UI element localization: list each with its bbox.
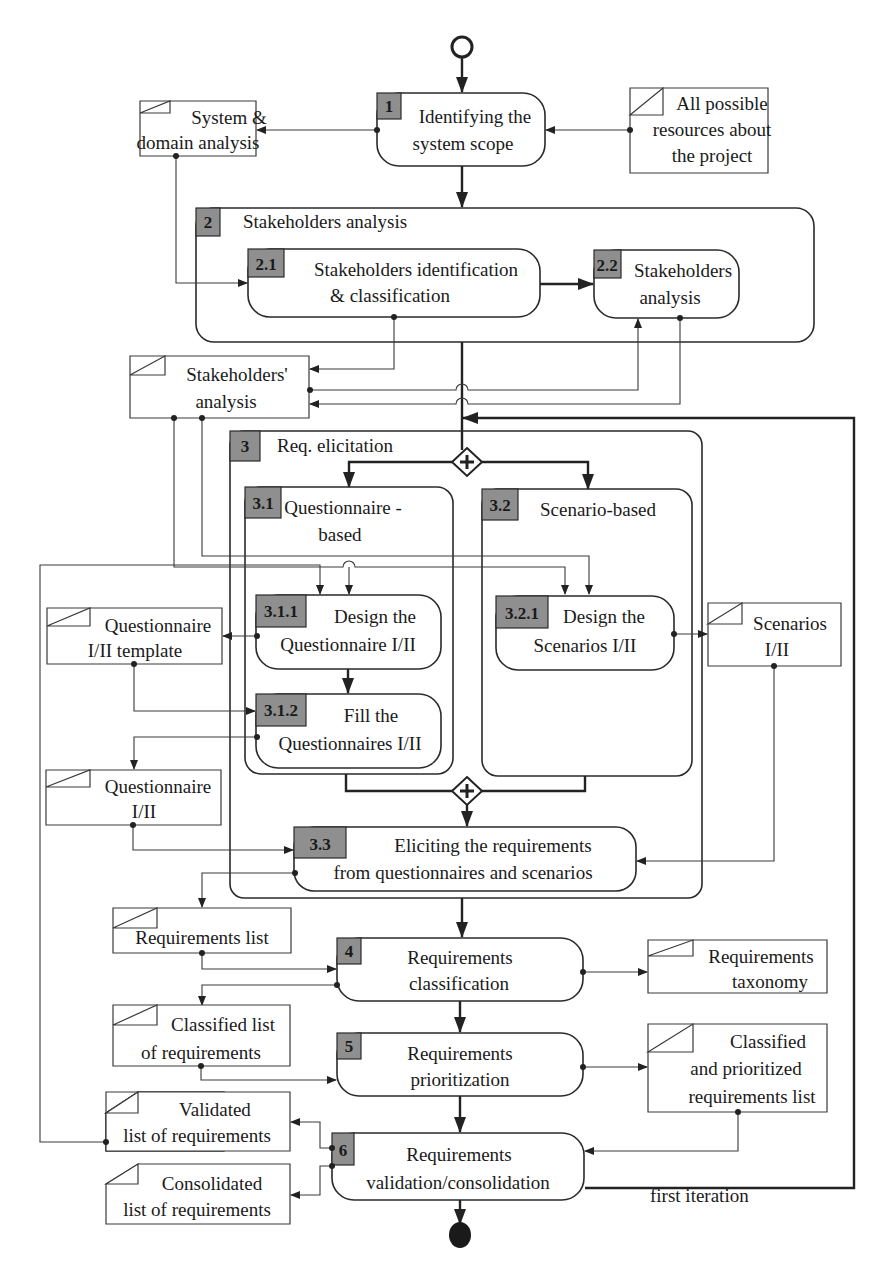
svg-text:I/II template: I/II template (88, 640, 182, 661)
svg-text:requirements list: requirements list (688, 1086, 816, 1107)
activity-3-2-1[interactable]: 3.2.1 Design the Scenarios I/II (496, 596, 674, 670)
svg-text:Requirements list: Requirements list (135, 927, 269, 948)
activity-diagram: 1 Identifying the system scope System & … (0, 0, 879, 1271)
artifact-requirements-list[interactable]: Requirements list (113, 908, 291, 953)
svg-text:system scope: system scope (413, 133, 514, 154)
svg-text:Questionnaire -: Questionnaire - (284, 497, 402, 518)
svg-text:analysis: analysis (195, 391, 256, 412)
svg-text:5: 5 (345, 1037, 354, 1056)
svg-text:Requirements: Requirements (407, 947, 513, 968)
svg-text:3: 3 (241, 437, 250, 456)
artifact-scenarios[interactable]: Scenarios I/II (708, 603, 841, 666)
loop-label: first iteration (650, 1185, 749, 1206)
activity-4[interactable]: 4 Requirements classification (337, 938, 583, 1001)
svg-text:All possible: All possible (676, 93, 767, 114)
svg-text:list of requirements: list of requirements (123, 1199, 271, 1220)
step-number: 1 (385, 97, 394, 116)
artifact-system-domain-analysis[interactable]: System & domain analysis (137, 101, 267, 156)
svg-text:Questionnaire: Questionnaire (105, 776, 212, 797)
svg-text:4: 4 (345, 942, 354, 961)
svg-text:Stakeholders analysis: Stakeholders analysis (243, 211, 407, 232)
svg-text:Identifying the: Identifying the (419, 106, 531, 127)
svg-text:Scenarios: Scenarios (753, 613, 827, 634)
end-node-icon (449, 1222, 471, 1248)
activity-2-1[interactable]: 2.1 Stakeholders identification & classi… (248, 249, 540, 317)
start-node-icon (452, 37, 472, 57)
artifact-questionnaire-template[interactable]: Questionnaire I/II template (47, 608, 222, 664)
activity-6[interactable]: 6 Requirements validation/consolidation (332, 1133, 584, 1200)
artifact-consolidated-list[interactable]: Consolidated list of requirements (106, 1164, 290, 1224)
svg-text:resources about: resources about (653, 119, 772, 140)
svg-text:of requirements: of requirements (141, 1042, 261, 1063)
artifact-validated-list-content: Validated list of requirements (106, 1092, 290, 1151)
svg-text:Classified list: Classified list (171, 1014, 276, 1035)
artifact-prioritized-list[interactable]: Classified and prioritized requirements … (648, 1024, 827, 1112)
svg-text:Consolidated: Consolidated (162, 1173, 263, 1194)
svg-text:3.2: 3.2 (489, 496, 510, 515)
artifact-all-possible-resources[interactable]: All possible resources about the project (630, 88, 772, 173)
activity-3-1-2[interactable]: 3.1.2 Fill the Questionnaires I/II (256, 694, 441, 768)
svg-text:Requirements: Requirements (407, 1043, 513, 1064)
svg-text:domain analysis: domain analysis (137, 132, 260, 153)
svg-text:Questionnaire: Questionnaire (105, 615, 212, 636)
svg-text:Stakeholders: Stakeholders (634, 260, 732, 281)
svg-text:prioritization: prioritization (410, 1069, 510, 1090)
svg-text:System &: System & (191, 107, 267, 128)
svg-text:Eliciting the requirements: Eliciting the requirements (394, 835, 591, 856)
svg-text:analysis: analysis (639, 287, 700, 308)
svg-text:validation/consolidation: validation/consolidation (366, 1172, 550, 1193)
svg-text:3.2.1: 3.2.1 (505, 604, 539, 623)
svg-text:based: based (318, 524, 362, 545)
svg-text:3.3: 3.3 (309, 835, 330, 854)
activity-3-1-1[interactable]: 3.1.1 Design the Questionnaire I/II (256, 595, 441, 669)
artifact-stakeholders-analysis[interactable]: Stakeholders' analysis (130, 356, 309, 418)
artifact-requirements-taxonomy[interactable]: Requirements taxonomy (648, 940, 827, 993)
svg-text:Scenarios I/II: Scenarios I/II (534, 635, 637, 656)
svg-text:3.1.2: 3.1.2 (264, 701, 298, 720)
svg-text:from questionnaires and scena: from questionnaires and scenarios (333, 862, 592, 883)
svg-text:I/II: I/II (132, 801, 156, 822)
svg-text:Classified: Classified (730, 1031, 806, 1052)
artifact-classified-list[interactable]: Classified list of requirements (113, 1005, 290, 1066)
svg-text:list of requirements: list of requirements (123, 1125, 271, 1146)
svg-text:Stakeholders': Stakeholders' (186, 364, 288, 385)
svg-text:6: 6 (339, 1141, 348, 1160)
svg-text:Design the: Design the (334, 606, 416, 627)
svg-text:Requirements: Requirements (406, 1144, 512, 1165)
svg-text:2.2: 2.2 (596, 256, 617, 275)
svg-text:classification: classification (409, 973, 510, 994)
svg-text:& classification: & classification (330, 285, 450, 306)
svg-text:Validated: Validated (179, 1099, 251, 1120)
svg-text:Fill the: Fill the (344, 705, 398, 726)
svg-text:Questionnaires I/II: Questionnaires I/II (279, 733, 422, 754)
activity-1[interactable]: 1 Identifying the system scope (377, 93, 545, 166)
svg-text:and prioritized: and prioritized (690, 1058, 802, 1079)
svg-text:Design the: Design the (563, 606, 645, 627)
svg-text:2.1: 2.1 (255, 255, 276, 274)
svg-text:3.1: 3.1 (252, 494, 273, 513)
svg-text:the project: the project (672, 145, 753, 166)
artifact-questionnaire[interactable]: Questionnaire I/II (46, 770, 221, 825)
fork-node (452, 448, 482, 476)
svg-text:3.1.1: 3.1.1 (264, 602, 298, 621)
svg-text:Req. elicitation: Req. elicitation (277, 435, 394, 456)
svg-text:I/II: I/II (765, 639, 789, 660)
svg-text:Stakeholders identification: Stakeholders identification (314, 259, 519, 280)
svg-text:Questionnaire I/II: Questionnaire I/II (280, 634, 416, 655)
activity-5[interactable]: 5 Requirements prioritization (337, 1033, 583, 1096)
activity-3-3[interactable]: 3.3 Eliciting the requirements from ques… (294, 827, 636, 891)
svg-text:Requirements: Requirements (708, 946, 814, 967)
join-node (452, 777, 482, 805)
svg-text:2: 2 (204, 213, 213, 232)
svg-text:Scenario-based: Scenario-based (540, 499, 657, 520)
svg-text:taxonomy: taxonomy (732, 971, 808, 992)
activity-2-2[interactable]: 2.2 Stakeholders analysis (594, 250, 739, 318)
